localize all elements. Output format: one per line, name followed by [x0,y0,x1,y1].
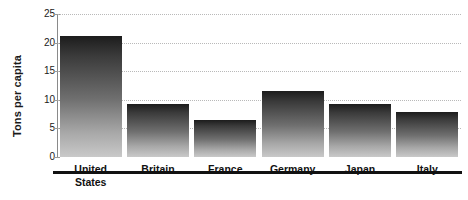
x-label-line: Germany [259,163,326,176]
y-axis-tick-15: 15 [29,66,55,76]
y-tick-mark [54,157,60,158]
x-label-line: France [192,163,259,176]
x-label-germany: Germany [259,163,326,176]
x-label-france: France [192,163,259,176]
bar-britain [127,104,189,157]
y-axis-tick-0: 0 [29,152,55,162]
gridline [58,14,461,15]
y-axis-title-text: Tons per capita [11,55,23,137]
x-label-line: Japan [326,163,393,176]
x-label-line: United [57,163,124,176]
y-axis-tick-25: 25 [29,9,55,19]
x-label-line: States [57,176,124,189]
bar-germany [262,91,324,157]
x-label-italy: Italy [394,163,461,176]
x-label-japan: Japan [326,163,393,176]
y-axis-tick-labels: 0510152025 [26,0,55,200]
x-label-united-states: UnitedStates [57,163,124,189]
plot-area [57,14,461,157]
x-label-line: Italy [394,163,461,176]
x-label-line: Britain [124,163,191,176]
y-axis-line [57,14,58,157]
bar-japan [329,104,391,157]
bar-france [194,120,256,157]
x-axis-category-labels: UnitedStatesBritainFranceGermanyJapanIta… [57,163,461,200]
bar-chart: Tons per capita 0510152025 UnitedStatesB… [0,0,468,200]
y-axis-tick-20: 20 [29,38,55,48]
y-axis-title: Tons per capita [8,36,26,156]
y-axis-tick-5: 5 [29,123,55,133]
x-label-britain: Britain [124,163,191,176]
y-axis-tick-10: 10 [29,95,55,105]
bar-united-states [60,36,122,157]
bar-italy [396,112,458,157]
